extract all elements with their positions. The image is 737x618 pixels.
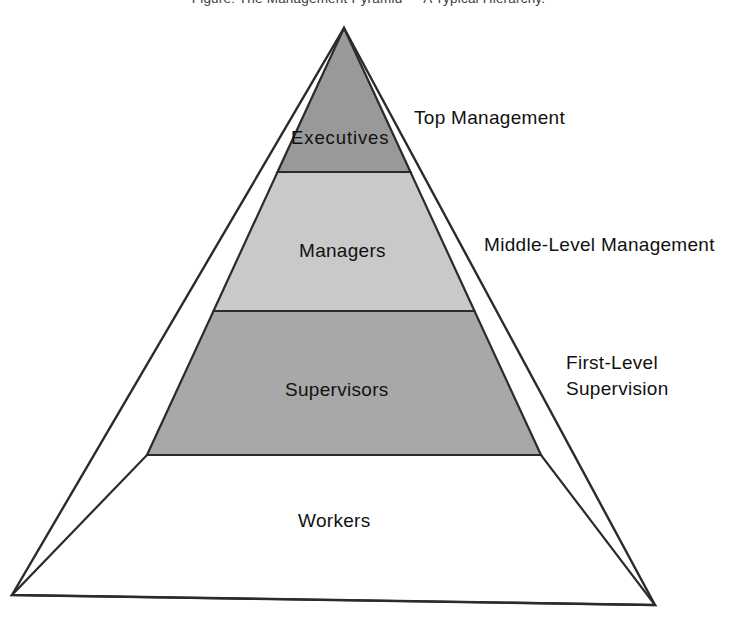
diagram-canvas: Figure: The Management Pyramid — A Typic… [0, 0, 737, 618]
band-label-supervisors: Supervisors [285, 379, 389, 401]
side-label-top-management: Top Management [414, 105, 565, 130]
pyramid-band-executives[interactable] [278, 28, 411, 172]
band-label-executives: Executives [291, 127, 389, 149]
band-label-workers: Workers [298, 510, 370, 532]
side-label-middle-level-management: Middle-Level Management [484, 232, 715, 257]
side-label-first-level-line1: First-Level [566, 352, 658, 373]
band-label-managers: Managers [299, 240, 386, 262]
side-label-first-level-supervision: First-LevelSupervision [566, 350, 669, 402]
side-label-first-level-line2: Supervision [566, 376, 669, 402]
